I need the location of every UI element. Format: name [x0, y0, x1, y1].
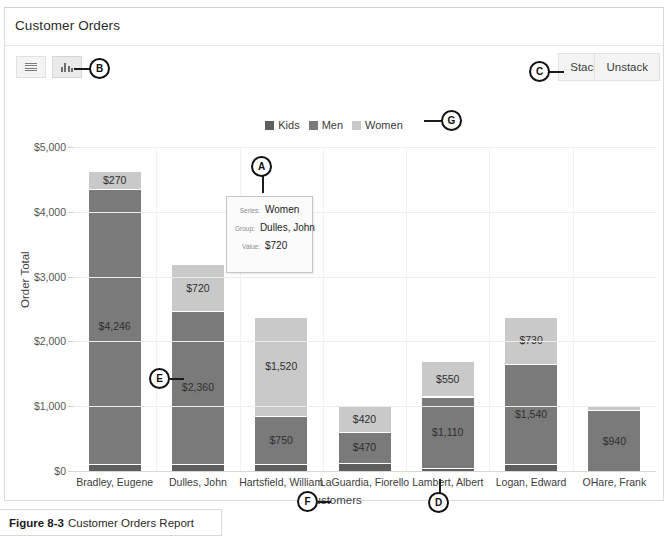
bar-segment-men[interactable]: $1,110: [422, 397, 474, 469]
bar-series-container: $4,246$270$2,360$720$750$1,520$470$420$1…: [73, 147, 656, 471]
bar-segment-data-label: $270: [89, 174, 141, 186]
bar-segment-women[interactable]: $270: [89, 171, 141, 188]
app-header: Customer Orders: [5, 8, 663, 46]
bar-segment-data-label: $720: [172, 282, 224, 294]
legend-item-label: Men: [322, 119, 343, 131]
bar-group[interactable]: $1,540$730: [505, 147, 557, 471]
y-tick-mark: [68, 212, 73, 213]
y-gridline: [73, 147, 656, 148]
legend-swatch-icon: [309, 121, 318, 130]
bar-segment-data-label: $750: [255, 434, 307, 446]
bar-segment-men[interactable]: $4,246: [89, 189, 141, 464]
bar-segment-kids[interactable]: [172, 464, 224, 471]
bar-segment-data-label: $1,540: [505, 408, 557, 420]
legend: KidsMenWomen: [5, 119, 663, 131]
list-view-toggle-button[interactable]: [16, 56, 46, 78]
page-title: Customer Orders: [15, 18, 120, 33]
x-axis-tick-label: Hartsfield, William: [239, 476, 323, 488]
bar-segment-kids[interactable]: [89, 464, 141, 471]
y-axis-title: Order Total: [19, 251, 31, 308]
x-axis-tick-label: Logan, Edward: [496, 476, 567, 488]
x-gridline: [573, 147, 574, 471]
bar-segment-data-label: $1,520: [255, 360, 307, 372]
tooltip-series-row: Series: Women: [235, 204, 304, 215]
y-tick-mark: [68, 147, 73, 148]
callout-f: F: [297, 491, 318, 512]
callout-leader-g: [424, 120, 442, 122]
bar-segment-data-label: $4,246: [89, 320, 141, 332]
bar-segment-kids[interactable]: [339, 463, 391, 471]
legend-item-label: Kids: [278, 119, 299, 131]
y-axis-tick-label: $0: [54, 465, 66, 477]
legend-swatch-icon: [265, 121, 274, 130]
bar-segment-data-label: $940: [588, 435, 640, 447]
tooltip-series-value: Women: [265, 204, 299, 215]
y-gridline: [73, 406, 656, 407]
callout-d: D: [428, 492, 449, 513]
x-gridline: [406, 147, 407, 471]
bar-group[interactable]: $4,246$270: [89, 147, 141, 471]
y-axis-tick-label: $3,000: [34, 271, 66, 283]
y-axis-tick-label: $2,000: [34, 335, 66, 347]
tooltip-group-key: Group:: [235, 225, 255, 232]
unstack-button[interactable]: Unstack: [594, 53, 660, 81]
y-tick-mark: [68, 341, 73, 342]
tooltip-value-key: Value:: [235, 243, 260, 250]
bar-segment-kids[interactable]: [255, 464, 307, 471]
figure-page: Customer Orders Stack Unstack KidsMenWom…: [0, 0, 669, 536]
bar-segment-men[interactable]: $2,360: [172, 311, 224, 464]
y-tick-mark: [68, 406, 73, 407]
data-point-tooltip: Series: Women Group: Dulles, John Value:…: [226, 196, 313, 273]
y-axis-tick-label: $4,000: [34, 206, 66, 218]
bar-segment-data-label: $470: [339, 441, 391, 453]
bar-segment-women[interactable]: $1,520: [255, 317, 307, 415]
bar-segment-women[interactable]: $550: [422, 361, 474, 397]
hamburger-menu-icon: [25, 63, 37, 72]
callout-leader-f: [318, 501, 331, 503]
bar-segment-men[interactable]: $470: [339, 432, 391, 462]
legend-item-women[interactable]: Women: [352, 119, 403, 131]
x-axis-tick-label: Bradley, Eugene: [76, 476, 153, 488]
x-axis-tick-label: Lambert, Albert: [412, 476, 483, 488]
x-gridline: [156, 147, 157, 471]
plot-area: $4,246$270$2,360$720$750$1,520$470$420$1…: [73, 147, 656, 471]
figure-number: Figure 8-3: [9, 517, 64, 529]
callout-leader-b: [74, 68, 90, 70]
y-axis-tick-label: $5,000: [34, 141, 66, 153]
y-axis-tick-label: $1,000: [34, 400, 66, 412]
callout-c: C: [529, 61, 550, 82]
x-axis-tick-label: Dulles, John: [169, 476, 227, 488]
tooltip-group-row: Group: Dulles, John: [235, 222, 304, 233]
callout-leader-c: [549, 71, 564, 73]
tooltip-value-row: Value: $720: [235, 240, 304, 251]
y-gridline: [73, 341, 656, 342]
bar-segment-kids[interactable]: [505, 464, 557, 471]
bar-segment-women[interactable]: $420: [339, 405, 391, 432]
bar-group[interactable]: $940: [588, 147, 640, 471]
legend-item-men[interactable]: Men: [309, 119, 343, 131]
bar-chart-icon: [61, 62, 74, 72]
callout-g: G: [441, 110, 462, 131]
bar-group[interactable]: $470$420: [339, 147, 391, 471]
bar-segment-men[interactable]: $940: [588, 410, 640, 471]
bar-group[interactable]: $1,110$550: [422, 147, 474, 471]
callout-a: A: [251, 156, 272, 177]
figure-caption-text: Customer Orders Report: [68, 517, 194, 529]
tooltip-series-key: Series:: [235, 207, 260, 214]
bar-segment-data-label: $2,360: [172, 381, 224, 393]
callout-b: B: [89, 58, 110, 79]
legend-swatch-icon: [352, 121, 361, 130]
x-gridline: [489, 147, 490, 471]
callout-leader-d: [439, 479, 441, 493]
legend-item-label: Women: [365, 119, 403, 131]
chart-view-toggle-button[interactable]: [52, 56, 82, 78]
bar-group[interactable]: $2,360$720: [172, 147, 224, 471]
tooltip-group-value: Dulles, John: [260, 222, 315, 233]
y-gridline: [73, 212, 656, 213]
figure-caption: Figure 8-3 Customer Orders Report: [0, 509, 222, 536]
legend-item-kids[interactable]: Kids: [265, 119, 299, 131]
bar-segment-men[interactable]: $750: [255, 416, 307, 465]
bar-segment-men[interactable]: $1,540: [505, 364, 557, 464]
y-tick-mark: [68, 277, 73, 278]
bar-segment-women[interactable]: $720: [172, 264, 224, 311]
